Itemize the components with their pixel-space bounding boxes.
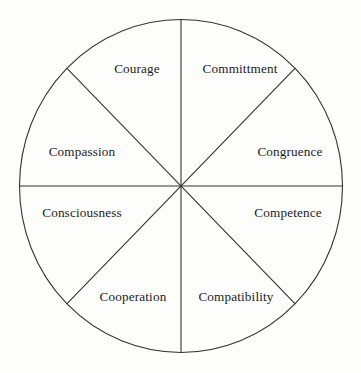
segment-label-competence: Competence xyxy=(254,206,321,219)
segment-label-committment: Committment xyxy=(203,62,278,75)
wheel-svg xyxy=(0,0,361,373)
segment-label-cooperation: Cooperation xyxy=(100,290,167,303)
segment-label-compassion: Compassion xyxy=(49,145,116,158)
segment-label-courage: Courage xyxy=(114,62,160,75)
wheel-diagram: Committment Congruence Competence Compat… xyxy=(0,0,361,373)
segment-label-compatibility: Compatibility xyxy=(198,290,273,303)
segment-label-consciousness: Consciousness xyxy=(42,206,122,219)
segment-label-congruence: Congruence xyxy=(257,145,322,158)
